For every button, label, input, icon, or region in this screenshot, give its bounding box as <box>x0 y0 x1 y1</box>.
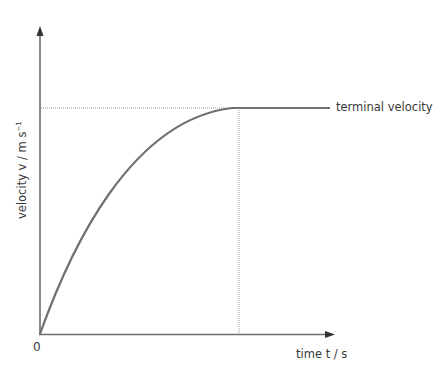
x-axis-label: time t / s <box>296 349 347 361</box>
x-axis-arrow-icon <box>325 331 335 338</box>
y-axis-label-superscript: −1 <box>15 121 23 131</box>
y-axis-label: velocity v / m s−1 <box>16 121 29 219</box>
velocity-time-graph <box>0 0 439 377</box>
y-axis-label-text: velocity v / m s <box>15 132 29 219</box>
terminal-velocity-label: terminal velocity <box>336 102 433 114</box>
origin-label: 0 <box>33 341 41 353</box>
velocity-curve <box>40 108 330 334</box>
y-axis-arrow-icon <box>37 26 44 36</box>
